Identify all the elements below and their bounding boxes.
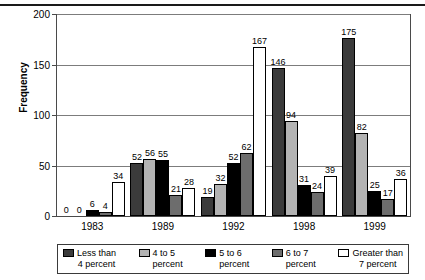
bar-slot: 0 [73,14,86,216]
bar[interactable] [368,191,381,216]
legend-item[interactable]: 4 to 5percent [139,248,183,270]
bar-slot: 19 [201,14,214,216]
legend-item[interactable]: Greater than7 percent [338,248,403,270]
bar[interactable] [311,192,324,216]
bar-value-label: 31 [299,175,309,184]
bar-slot: 32 [214,14,227,216]
x-tick-label: 1998 [293,221,315,232]
bar[interactable] [143,159,156,216]
bar-slot: 24 [311,14,324,216]
bar-value-label: 56 [145,149,155,158]
legend-swatch-icon [139,249,150,257]
figure-top-rule [0,4,425,6]
legend-label-line1: 6 to 7 [286,248,316,259]
bar-group: 146943124391998 [269,14,340,216]
bar[interactable] [214,184,227,216]
bar[interactable] [272,68,285,216]
bar[interactable] [285,121,298,216]
bar[interactable] [253,47,266,217]
bar-value-label: 25 [370,181,380,190]
bar-value-label: 0 [64,206,69,215]
bar-slot: 36 [394,14,407,216]
x-tick-label: 1983 [81,221,103,232]
plot-area: 050100150200 006434198352565521281989193… [56,14,411,217]
y-tick-label: 0 [44,211,50,222]
bar[interactable] [394,179,407,216]
legend-item-label: 4 to 5percent [153,248,183,270]
bar-group-bars: 5256552128 [130,14,195,216]
bar[interactable] [298,185,311,216]
legend-label-line1: Greater than [352,248,403,259]
legend-item[interactable]: 6 to 7percent [272,248,316,270]
chart-legend: Less than4 percent4 to 5percent5 to 6per… [57,244,409,274]
bar-chart: Frequency 050100150200 00643419835256552… [0,0,425,280]
y-tick-label: 100 [33,110,50,121]
bar[interactable] [169,195,182,216]
bar[interactable] [324,176,337,216]
y-tick-label: 150 [33,59,50,70]
bar-slot: 146 [272,14,285,216]
bar-slot: 17 [381,14,394,216]
bar-slot: 21 [169,14,182,216]
bar-slot: 82 [355,14,368,216]
bar-group-bars: 14694312439 [272,14,337,216]
legend-item-label: 6 to 7percent [286,248,316,270]
bar[interactable] [381,199,394,216]
bar-group-bars: 19325262167 [201,14,266,216]
bar-group: 175822517361999 [339,14,410,216]
bar-value-label: 0 [77,206,82,215]
bar[interactable] [182,188,195,216]
bar-slot: 4 [99,14,112,216]
bar-value-label: 52 [132,153,142,162]
legend-label-line2: percent [153,259,183,270]
bar-value-label: 146 [271,58,286,67]
bar-slot: 39 [324,14,337,216]
y-tick-mark [52,216,57,217]
bar[interactable] [240,153,253,216]
y-axis-title: Frequency [18,33,29,143]
bar-value-label: 34 [113,172,123,181]
bar-value-label: 36 [396,169,406,178]
bar-slot: 25 [368,14,381,216]
bar-slot: 175 [342,14,355,216]
legend-item-label: Greater than7 percent [352,248,403,270]
bar-slot: 52 [227,14,240,216]
bar[interactable] [112,182,125,217]
bar-value-label: 167 [252,37,267,46]
bar[interactable] [355,133,368,216]
bar-value-label: 21 [171,185,181,194]
x-tick-label: 1989 [152,221,174,232]
legend-label-line2: 7 percent [352,259,403,270]
bar-value-label: 55 [158,150,168,159]
bar-value-label: 32 [215,174,225,183]
bar-slot: 31 [298,14,311,216]
bar-slot: 6 [86,14,99,216]
legend-swatch-icon [338,249,349,257]
legend-item-label: Less than4 percent [77,248,116,270]
bar-slot: 28 [182,14,195,216]
bar[interactable] [130,163,143,216]
bar[interactable] [227,163,240,216]
bar-group: 0064341983 [57,14,128,216]
legend-swatch-icon [205,249,216,257]
legend-label-line2: percent [219,259,249,270]
bar[interactable] [156,160,169,216]
y-tick-label: 200 [33,9,50,20]
bar[interactable] [99,212,112,216]
legend-label-line1: 5 to 6 [219,248,249,259]
bar-slot: 167 [253,14,266,216]
bar-value-label: 4 [103,202,108,211]
bar-value-label: 82 [357,123,367,132]
bar[interactable] [86,210,99,216]
bar[interactable] [342,38,355,216]
bar-value-label: 24 [312,182,322,191]
bar-slot: 94 [285,14,298,216]
bar-value-label: 62 [241,143,251,152]
legend-item[interactable]: Less than4 percent [63,248,116,270]
bar-slot: 56 [143,14,156,216]
bar-group: 193252621671992 [198,14,269,216]
bar-value-label: 19 [202,187,212,196]
bar[interactable] [201,197,214,216]
legend-label-line1: 4 to 5 [153,248,183,259]
legend-item[interactable]: 5 to 6percent [205,248,249,270]
